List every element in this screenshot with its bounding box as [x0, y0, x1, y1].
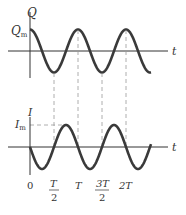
- tick-3half-T-den: 2: [99, 192, 105, 203]
- dashed-guides: [30, 30, 126, 147]
- tick-3half-T-num: 3T: [96, 178, 110, 189]
- charge-graph: [8, 12, 168, 78]
- tick-half-T-num: T: [50, 178, 58, 189]
- lc-oscillation-figure: Q Qm t I Im t 0 T 2 T 3T 2 2T: [0, 0, 186, 215]
- tick-T: T: [75, 180, 83, 191]
- tick-half-T-den: 2: [51, 192, 57, 203]
- tick-2T: 2T: [118, 180, 133, 191]
- qm-label: Qm: [11, 24, 28, 39]
- bottom-t-label: t: [172, 141, 177, 154]
- im-label: Im: [14, 118, 26, 132]
- top-t-label: t: [172, 45, 177, 58]
- q-axis-label: Q: [27, 6, 37, 20]
- i-axis-label: I: [27, 106, 33, 119]
- tick-0: 0: [27, 180, 33, 191]
- current-graph: [8, 117, 168, 175]
